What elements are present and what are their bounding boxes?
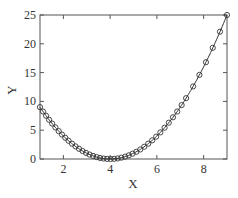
data-markers — [37, 12, 229, 161]
x-tick-label: 8 — [201, 162, 207, 176]
x-axis-label: X — [128, 176, 138, 191]
y-axis-ticks: 0510152025 — [24, 8, 227, 166]
y-axis-label: Y — [4, 85, 19, 95]
x-tick-label: 6 — [154, 162, 160, 176]
y-tick-label: 0 — [30, 152, 36, 166]
x-tick-label: 4 — [107, 162, 113, 176]
y-tick-label: 10 — [24, 94, 36, 108]
y-tick-label: 25 — [24, 8, 36, 22]
chart: 2468 0510152025 X Y — [0, 0, 238, 198]
x-tick-label: 2 — [60, 162, 66, 176]
y-tick-label: 15 — [24, 66, 36, 80]
y-tick-label: 20 — [24, 37, 36, 51]
y-tick-label: 5 — [30, 123, 36, 137]
